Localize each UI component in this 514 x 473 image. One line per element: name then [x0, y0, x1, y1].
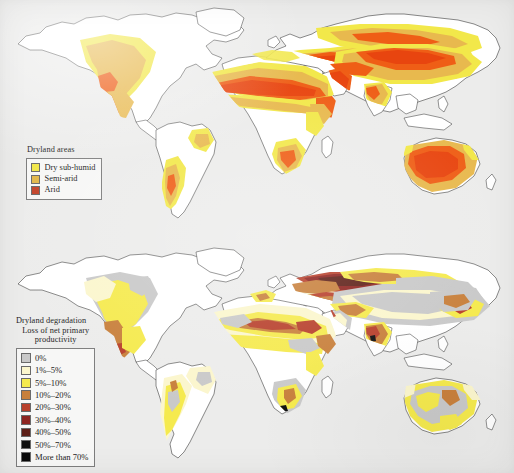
legend-swatch-deg-40-50 — [21, 428, 31, 438]
legend-swatch-arid — [31, 186, 40, 195]
landmass-indonesia — [404, 354, 452, 370]
legend-title-line-3: productivity — [16, 335, 95, 345]
legend-swatch-deg-1-5 — [21, 366, 31, 376]
legend-item-deg-50-70[interactable]: 50%–70% — [21, 439, 88, 451]
legend-title-block-degradation: Dryland degradation Loss of net primary … — [16, 316, 95, 345]
legend-item-deg-0[interactable]: 0% — [21, 352, 88, 364]
landmass-philippines — [438, 336, 448, 352]
legend-title-dryland: Dryland areas — [26, 145, 102, 155]
map-panel-dryland-areas — [0, 0, 514, 236]
legend-item-deg-40-50[interactable]: 40%–50% — [21, 426, 88, 438]
legend-label-deg-30-40: 30%–40% — [35, 416, 71, 424]
legend-box-dryland: Dry sub-humid Semi-arid Arid — [26, 158, 102, 200]
legend-swatch-deg-30-40 — [21, 415, 31, 425]
world-map-dryland-areas — [0, 0, 514, 236]
landmass-madagascar — [322, 376, 333, 398]
legend-label-deg-20-30: 20%–30% — [35, 403, 71, 411]
legend-item-deg-10-20[interactable]: 10%–20% — [21, 389, 88, 401]
landmass-british-isles — [268, 276, 280, 288]
legend-box-degradation: 0% 1%–5% 5%–10% 10%–20% 20%–30% 30%–40% … — [16, 348, 95, 468]
legend-label-dry-sub-humid: Dry sub-humid — [45, 164, 96, 172]
legend-item-deg-30-40[interactable]: 30%–40% — [21, 414, 88, 426]
legend-item-deg-70-plus[interactable]: More than 70% — [21, 451, 88, 463]
legend-swatch-deg-20-30 — [21, 403, 31, 413]
landmass-indonesia — [404, 114, 452, 130]
landmass-new-zealand — [486, 414, 496, 430]
legend-label-deg-0: 0% — [35, 354, 46, 362]
legend-title-line-2: Loss of net primary — [16, 326, 95, 336]
legend-swatch-deg-50-70 — [21, 440, 31, 450]
legend-swatch-deg-5-10 — [21, 378, 31, 388]
legend-label-deg-70-plus: More than 70% — [35, 453, 88, 461]
legend-swatch-deg-70-plus — [21, 452, 31, 462]
legend-label-deg-10-20: 10%–20% — [35, 391, 71, 399]
legend-label-semi-arid: Semi-arid — [45, 175, 78, 183]
legend-label-arid: Arid — [45, 186, 60, 194]
legend-item-deg-5-10[interactable]: 5%–10% — [21, 377, 88, 389]
legend-dryland-areas: Dryland areas Dry sub-humid Semi-arid Ar… — [26, 145, 102, 200]
legend-item-semi-arid[interactable]: Semi-arid — [31, 173, 95, 184]
legend-dryland-degradation: Dryland degradation Loss of net primary … — [16, 316, 95, 467]
legend-swatch-semi-arid — [31, 175, 40, 184]
legend-swatch-dry-sub-humid — [31, 163, 40, 172]
legend-label-deg-40-50: 40%–50% — [35, 428, 71, 436]
legend-item-deg-1-5[interactable]: 1%–5% — [21, 364, 88, 376]
legend-item-dry-sub-humid[interactable]: Dry sub-humid — [31, 162, 95, 173]
legend-item-arid[interactable]: Arid — [31, 185, 95, 196]
legend-label-deg-50-70: 50%–70% — [35, 441, 71, 449]
legend-item-deg-20-30[interactable]: 20%–30% — [21, 401, 88, 413]
landmass-new-zealand — [486, 174, 496, 190]
legend-swatch-deg-10-20 — [21, 390, 31, 400]
legend-label-deg-5-10: 5%–10% — [35, 379, 67, 387]
landmass-madagascar — [322, 136, 333, 158]
landmass-british-isles — [268, 36, 280, 48]
landmass-philippines — [438, 96, 448, 112]
legend-label-deg-1-5: 1%–5% — [35, 366, 62, 374]
legend-swatch-deg-0 — [21, 353, 31, 363]
legend-title-line-1: Dryland degradation — [16, 316, 95, 326]
